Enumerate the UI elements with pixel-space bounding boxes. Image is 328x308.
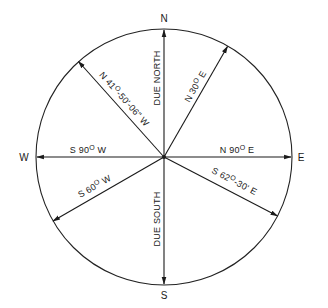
center-point [162, 155, 166, 159]
compass-diagram: N E S W DUE NORTH DUE SOUTH N 30O E N 90… [0, 0, 328, 308]
ray-s6230e [164, 157, 278, 216]
compass-svg: N E S W DUE NORTH DUE SOUTH N 30O E N 90… [0, 0, 328, 308]
cardinal-east: E [298, 152, 305, 163]
label-n4150w: N 41O-50'-06" W [97, 69, 152, 128]
label-due-north: DUE NORTH [152, 50, 162, 105]
cardinal-south: S [161, 290, 168, 301]
cardinal-west: W [19, 152, 29, 163]
ray-s60w [53, 157, 164, 221]
label-s90w: S 90O W [70, 144, 107, 155]
label-n90e: N 90O E [220, 144, 254, 155]
ray-n30e [164, 47, 228, 158]
label-s60w: S 60O W [76, 172, 113, 200]
cardinal-north: N [160, 13, 167, 24]
label-s6230e: S 62O-30' E [210, 165, 259, 198]
label-due-south: DUE SOUTH [152, 192, 162, 247]
